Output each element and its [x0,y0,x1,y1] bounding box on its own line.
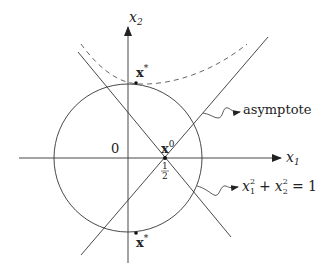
asymptote-label: asymptote [243,102,312,117]
top-point-dot [134,81,138,85]
bottom-point-label: x* [136,233,149,250]
asymptote-line-positive [81,37,268,255]
x2-axis-label: x2 [129,9,143,27]
x1-axis-label: x1 [286,149,300,167]
origin-label: 0 [111,141,119,156]
asymptote-pointer [203,108,240,118]
center-point-label: x0 [161,139,175,156]
circle-eq-pointer [197,186,238,196]
half-tick-label: 1 2 [161,161,169,181]
hyperbola-dashed-curve [81,44,247,84]
diagram-canvas: x2 x1 0 x* x* x0 1 2 asymptote x21+x22= … [0,0,321,277]
circle-equation-label: x21+x22= 1 [242,177,317,196]
asymptote-line-negative [78,52,231,237]
svg-text:2: 2 [162,171,168,181]
top-point-label: x* [136,63,149,80]
svg-text:1: 1 [162,161,168,171]
center-point-dot [163,156,167,160]
